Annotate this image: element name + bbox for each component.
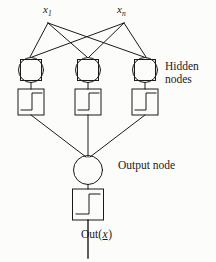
hidden-node-2-inner-square [78, 60, 99, 81]
hidden-node-3-inner-square [135, 60, 156, 81]
hidden-node-1-circle [19, 58, 44, 83]
hidden-node-3 [132, 58, 158, 116]
output-node-label: Output node [118, 159, 175, 172]
output-node-circle [74, 156, 103, 185]
input-label-xn: xn [117, 3, 126, 19]
hidden-node-1-inner-square [21, 60, 42, 81]
hidden-node-1 [18, 58, 44, 116]
output-node-step-glyph [76, 194, 100, 214]
out-prefix: Out( [81, 228, 102, 240]
edge-h1-out [31, 115, 86, 157]
output-node [73, 156, 104, 221]
edge-h3-out [90, 115, 145, 157]
edge-xn-h2 [89, 23, 124, 57]
hidden-to-output-edges [31, 115, 145, 157]
hidden-node-2 [75, 58, 101, 116]
hidden-nodes-label-line2: nodes [165, 73, 199, 86]
network-diagram-canvas: x1 xn Hiddennodes Output node Out(x) [0, 0, 216, 262]
edge-x1-h3 [48, 23, 144, 57]
hidden-node-3-circle [133, 58, 158, 83]
input-to-hidden-edges [30, 23, 146, 57]
out-suffix: ) [108, 228, 112, 240]
hidden-node-3-step-glyph [135, 93, 156, 110]
input-label-x1: x1 [43, 3, 52, 19]
hidden-node-2-step-glyph [78, 93, 99, 110]
edge-xn-h3 [124, 23, 146, 57]
edge-x1-h2 [48, 23, 87, 57]
hidden-nodes-label: Hiddennodes [165, 60, 199, 86]
hidden-node-1-step-glyph [21, 93, 42, 110]
hidden-nodes-label-line1: Hidden [165, 60, 199, 72]
output-function-label: Out(x) [81, 228, 112, 241]
hidden-node-2-circle [76, 58, 101, 83]
network-diagram-svg [0, 0, 216, 262]
